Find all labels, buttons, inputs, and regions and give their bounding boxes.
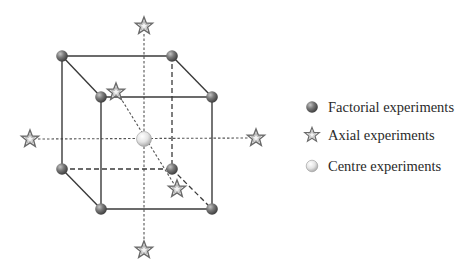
- axial-point-star-icon: [21, 130, 38, 146]
- axial-point-star-icon: [135, 241, 152, 257]
- factorial-point-sphere-icon: [206, 91, 218, 103]
- factorial-point-sphere-icon: [206, 203, 218, 215]
- axial-point-star-icon: [247, 129, 264, 145]
- factorial-point-sphere-icon: [95, 91, 107, 103]
- legend-label-factorial: Factorial experiments: [328, 99, 454, 116]
- top-right-depth-edge: [172, 56, 212, 97]
- top-left-depth-edge: [62, 56, 101, 97]
- factorial-point-sphere-icon: [56, 163, 68, 175]
- legend-label-axial: Axial experiments: [328, 127, 435, 144]
- factorial-point-sphere-icon: [166, 50, 178, 62]
- centre-point-sphere-icon: [137, 132, 152, 147]
- legend-label-centre: Centre experiments: [328, 158, 441, 175]
- factorial-sphere-icon: [300, 96, 324, 118]
- factorial-point-sphere-icon: [95, 203, 107, 215]
- legend-item-factorial: Factorial experiments: [300, 96, 463, 118]
- factorial-point-sphere-icon: [56, 50, 68, 62]
- legend-item-centre: Centre experiments: [300, 155, 463, 177]
- central-composite-design-diagram: [0, 0, 300, 271]
- factorial-point-sphere-icon: [166, 163, 178, 175]
- axial-star-icon: [300, 124, 324, 146]
- legend-item-axial: Axial experiments: [300, 124, 463, 146]
- axial-point-star-icon: [135, 17, 152, 33]
- bottom-left-depth-edge: [62, 169, 101, 209]
- axial-point-star-icon: [168, 180, 185, 196]
- centre-sphere-icon: [300, 155, 324, 177]
